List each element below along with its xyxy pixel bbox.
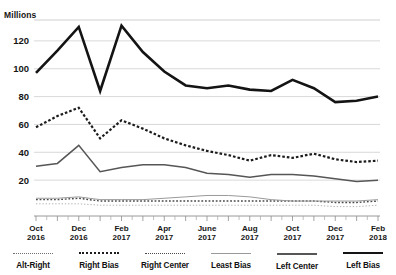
data-series-group [36,26,378,207]
x-axis-tick-label-year: 2016 [27,233,45,242]
x-axis-tick-label-month: Oct [29,224,43,233]
legend-item[interactable]: Alt-Right [0,249,66,270]
legend-item[interactable]: Right Center [132,249,198,270]
legend-item[interactable]: Left Bias [330,249,396,270]
x-axis-tick-label-month: Dec [71,224,86,233]
legend-swatch-icon [79,252,119,259]
legend-item[interactable]: Least Bias [198,249,264,270]
x-axis-tick-label-month: Dec [328,224,343,233]
legend-item[interactable]: Right Bias [66,249,132,270]
x-axis-tick-labels: Oct2016Dec2016Feb2017Apr2017June2017Aug2… [27,224,387,242]
y-axis-tick-label: 40 [18,147,29,158]
x-axis-tick-label-year: 2017 [155,233,173,242]
x-axis-tick-label-year: 2017 [241,233,259,242]
chart-container: Millions 20406080100120 Oct2016Dec2016Fe… [0,0,396,275]
legend-swatch-icon [277,253,317,260]
x-axis-tick-label-month: Feb [114,224,128,233]
x-axis-tick-label-year: 2017 [326,233,344,242]
series-line-left-bias [36,26,378,103]
y-axis-tick-labels: 20406080100120 [13,35,29,185]
legend-item-label: Right Center [141,261,189,270]
x-axis-tick-label-month: Aug [242,224,258,233]
x-axis-tick-label-year: 2017 [284,233,302,242]
legend-item-label: Left Center [276,262,318,271]
y-axis-tick-label: 80 [18,91,29,102]
series-line-alt-right [36,204,378,207]
x-axis-tick-label-year: 2018 [369,233,387,242]
y-axis-tick-label: 60 [18,119,29,130]
x-axis-tick-label-month: Oct [286,224,300,233]
gridlines [34,20,380,180]
legend-item-label: Least Bias [211,261,251,270]
line-chart-plot: 20406080100120 Oct2016Dec2016Feb2017Apr2… [0,0,396,275]
x-axis-tick-label-year: 2017 [113,233,131,242]
legend-swatch-icon [13,253,53,259]
x-axis-tick-label-year: 2016 [70,233,88,242]
chart-legend: Alt-RightRight BiasRight CenterLeast Bia… [0,249,396,275]
legend-swatch-icon [343,252,383,259]
series-line-right-center [36,198,378,202]
legend-swatch-icon [145,253,185,259]
legend-item-label: Left Bias [346,261,380,270]
y-axis-tick-label: 100 [13,63,29,74]
x-axis-line-and-ticks [34,216,380,221]
y-axis-tick-label: 120 [13,35,29,46]
x-axis-tick-label-month: Feb [371,224,385,233]
x-axis-tick-label-month: June [198,224,217,233]
legend-item-label: Alt-Right [16,261,50,270]
y-axis-tick-label: 20 [18,175,29,186]
legend-item[interactable]: Left Center [264,249,330,271]
legend-item-label: Right Bias [79,261,119,270]
series-line-least-bias [36,195,378,201]
series-line-right-bias [36,108,378,162]
x-axis-tick-label-year: 2017 [198,233,216,242]
x-axis-tick-label-month: Apr [157,224,171,233]
legend-swatch-icon [211,253,251,259]
